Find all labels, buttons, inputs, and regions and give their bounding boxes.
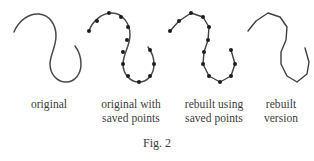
saved-point	[201, 62, 205, 66]
panel-label-rebuilt-version: rebuilt version	[252, 98, 310, 125]
saved-point	[207, 25, 211, 29]
original-curve-path	[14, 14, 81, 82]
saved-point	[177, 19, 181, 23]
panel-label-rebuilt-version-line2: version	[252, 112, 310, 126]
panel-label-original-with-saved-points-line2: saved points	[88, 112, 174, 126]
saved-point	[148, 74, 152, 78]
saved-point	[229, 74, 233, 78]
saved-point	[121, 50, 125, 54]
panel-original	[14, 14, 81, 82]
panel-label-original-with-saved-points: original with saved points	[88, 98, 174, 125]
panel-rebuilt-using-saved-points	[168, 11, 237, 84]
saved-point	[121, 62, 125, 66]
curve-illustrations	[0, 0, 314, 100]
saved-point	[207, 74, 211, 78]
saved-points-group-rebuilt	[168, 11, 237, 84]
saved-point	[126, 74, 130, 78]
saved-point	[95, 19, 99, 23]
saved-point	[168, 29, 172, 33]
saved-point	[229, 48, 233, 52]
saved-point	[152, 62, 156, 66]
saved-point	[206, 38, 210, 42]
saved-point	[201, 15, 205, 19]
panel-label-rebuilt-using-saved-points: rebuilt using saved points	[172, 98, 256, 125]
figure-caption: Fig. 2	[0, 136, 314, 151]
saved-point	[137, 80, 141, 84]
saved-point	[87, 29, 91, 33]
rebuilt-version-polyline-path	[248, 13, 309, 82]
saved-point	[126, 25, 130, 29]
saved-point	[202, 50, 206, 54]
saved-point	[218, 80, 222, 84]
panel-label-original: original	[8, 98, 90, 112]
panel-label-rebuilt-version-line1: rebuilt	[266, 98, 296, 110]
panel-label-original-with-saved-points-line1: original with	[101, 98, 161, 110]
saved-point	[233, 62, 237, 66]
rebuilt-polyline-path	[170, 13, 235, 82]
panel-original-with-saved-points	[87, 11, 156, 84]
saved-point	[148, 48, 152, 52]
saved-point	[125, 38, 129, 42]
panel-labels-row: original original with saved points rebu…	[0, 97, 314, 131]
figure-container: original original with saved points rebu…	[0, 0, 314, 161]
original-with-points-curve-path	[89, 13, 154, 82]
saved-point	[119, 15, 123, 19]
panel-label-original-line1: original	[31, 98, 67, 110]
panel-label-rebuilt-using-saved-points-line1: rebuilt using	[185, 98, 243, 110]
saved-point	[189, 11, 193, 15]
panel-label-rebuilt-using-saved-points-line2: saved points	[172, 112, 256, 126]
saved-points-group-original	[87, 11, 156, 84]
saved-point	[107, 11, 111, 15]
panel-rebuilt-version	[248, 13, 309, 82]
